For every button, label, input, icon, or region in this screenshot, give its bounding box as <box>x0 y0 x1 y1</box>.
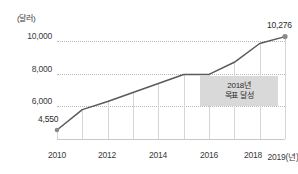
gridline-10000 <box>57 41 285 42</box>
x-tick-2012: 2012 <box>98 150 116 160</box>
vgridline-2019 <box>285 37 286 139</box>
x-axis-line <box>57 139 285 140</box>
gridline-6000 <box>57 106 285 107</box>
y-tick-8000: 8,000 <box>10 64 52 74</box>
x-tick-2019: 2019(년) <box>267 150 298 162</box>
gridline-8000 <box>57 74 285 75</box>
vgridline-2015 <box>184 75 185 139</box>
x-tick-2014: 2014 <box>149 150 167 160</box>
vgridline-2013 <box>133 92 134 139</box>
callout-line-1: 2018년 <box>227 81 250 91</box>
point-label-end: 10,276 <box>267 20 292 30</box>
callout-line-2: 목표 달성 <box>225 91 254 101</box>
y-axis-unit-label: (달러) <box>17 12 36 23</box>
vgridline-2012 <box>108 101 109 139</box>
vgridline-2011 <box>82 110 83 139</box>
point-label-start: 4,550 <box>38 114 58 124</box>
vgridline-2014 <box>158 84 159 140</box>
y-tick-6000: 6,000 <box>10 96 52 106</box>
goal-achieved-callout: 2018년 목표 달성 <box>200 76 278 106</box>
y-tick-10000: 10,000 <box>10 31 52 41</box>
chart-container: (달러) 10,000 8,000 6,000 4,550 10,276 201… <box>0 0 298 174</box>
x-tick-2018: 2018 <box>244 150 262 160</box>
x-tick-2010: 2010 <box>48 150 66 160</box>
vgridline-2010 <box>57 130 58 139</box>
x-tick-2016: 2016 <box>200 150 218 160</box>
